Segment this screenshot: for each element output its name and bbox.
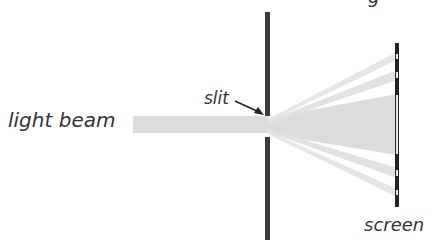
slit-arrow-line — [235, 101, 259, 112]
slit-arrow-head — [254, 107, 264, 115]
screen-bright-fringe-top-1 — [396, 72, 398, 78]
screen-bright-fringe-bottom-2 — [396, 190, 398, 195]
central-diffraction-cone — [268, 94, 397, 155]
slit-label: slit — [204, 88, 229, 108]
screen-bright-fringe-top-2 — [396, 54, 398, 59]
incoming-light-beam — [133, 116, 268, 133]
barrier-lower — [265, 137, 270, 240]
screen-bright-fringe-bottom-1 — [396, 170, 398, 176]
barrier-upper — [265, 12, 270, 116]
screen-central-bright-fringe — [396, 95, 398, 154]
light-beam-label: light beam — [8, 108, 115, 132]
diffraction-diagram: g light beam slit screen — [0, 0, 432, 249]
cropped-title-fragment: g — [368, 0, 379, 7]
screen-label: screen — [364, 214, 424, 235]
